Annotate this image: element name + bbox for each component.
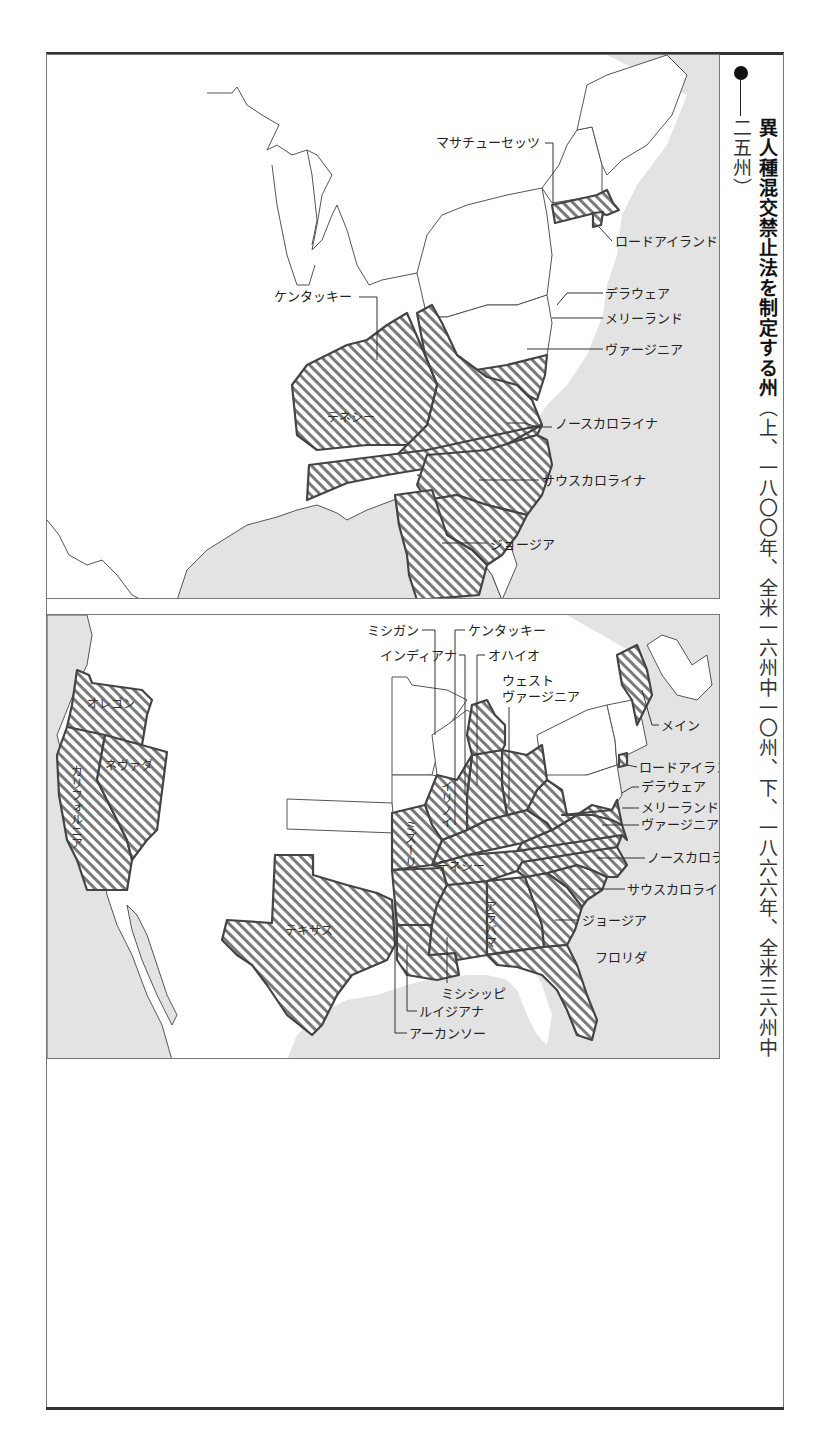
label-rhode-island: ロードアイランド xyxy=(639,760,720,775)
state-kansas-nebraska xyxy=(287,799,395,833)
label-delaware: デラウェア xyxy=(605,286,670,301)
caption-title: 異人種混交禁止法を制定する州 xyxy=(756,118,778,398)
label-michigan: ミシガン xyxy=(367,623,419,638)
label-west-virginia-line2: ヴァージニア xyxy=(502,689,580,704)
label-florida: フロリダ xyxy=(595,950,647,965)
bullet-icon xyxy=(734,66,748,80)
label-west-virginia-line1: ウェスト xyxy=(502,673,554,688)
mexico-coastline xyxy=(47,520,142,599)
caption-stem-line xyxy=(740,80,741,116)
label-georgia: ジョージア xyxy=(490,537,555,552)
label-rhode-island: ロードアイランド xyxy=(615,234,718,249)
label-maryland: メリーランド xyxy=(605,311,683,326)
state-new-york xyxy=(417,188,552,317)
label-texas: テキサス xyxy=(285,924,333,938)
label-arkansas: アーカンソー xyxy=(409,1026,486,1041)
label-alabama: アラバマ xyxy=(482,900,496,948)
label-north-carolina: ノースカロライナ xyxy=(555,416,658,431)
label-maine: メイン xyxy=(661,718,700,733)
map-1800: マサチューセッツ ロードアイランド デラウェア メリーランド ヴァージニア ケン… xyxy=(46,54,720,599)
great-lakes-outline xyxy=(207,87,417,285)
caption-text: 異人種混交禁止法を制定する州（上、一八〇〇年、全米一六州中一〇州、下、一八六六年… xyxy=(728,118,780,1066)
label-tennessee: テネシー xyxy=(327,411,375,425)
map-1866-svg: ミシガン ケンタッキー インディアナ オハイオ ウェスト ヴァージニア メイン … xyxy=(47,615,720,1059)
label-massachusetts: マサチューセッツ xyxy=(436,135,540,150)
label-virginia: ヴァージニア xyxy=(605,342,683,357)
map-1866: ミシガン ケンタッキー インディアナ オハイオ ウェスト ヴァージニア メイン … xyxy=(46,614,720,1059)
state-vermont-nh xyxy=(542,127,602,203)
label-nevada: ネヴァダ xyxy=(105,758,153,773)
label-missouri: ミズーリ xyxy=(402,820,416,868)
label-mississippi: ミシシッピ xyxy=(441,986,506,1001)
label-north-carolina: ノースカロライナ xyxy=(647,850,720,865)
label-maryland: メリーランド xyxy=(641,800,719,815)
label-kentucky: ケンタッキー xyxy=(468,623,546,638)
label-ohio: オハイオ xyxy=(488,648,540,663)
label-indiana: インディアナ xyxy=(380,648,457,663)
label-south-carolina: サウスカロライナ xyxy=(627,882,720,897)
map-1800-svg: マサチューセッツ ロードアイランド デラウェア メリーランド ヴァージニア ケン… xyxy=(47,55,720,599)
state-michigan xyxy=(467,700,505,755)
lake-michigan xyxy=(272,150,317,285)
label-delaware: デラウェア xyxy=(641,779,706,794)
label-tennessee: テネシー xyxy=(437,860,485,874)
label-louisiana: ルイジアナ xyxy=(419,1004,484,1019)
figure-caption: 異人種混交禁止法を制定する州（上、一八〇〇年、全米一六州中一〇州、下、一八六六年… xyxy=(724,66,784,1066)
label-georgia: ジョージア xyxy=(582,913,647,928)
state-rhode-island xyxy=(619,753,627,767)
label-virginia: ヴァージニア xyxy=(641,817,719,832)
label-oregon: オレゴン xyxy=(87,696,135,711)
label-south-carolina: サウスカロライナ xyxy=(542,473,646,488)
bottom-rule xyxy=(46,1407,784,1410)
state-kentucky xyxy=(292,313,437,450)
label-illinois: イリノイ xyxy=(438,780,452,828)
label-california: カリフォルニア xyxy=(68,765,82,849)
state-rhode-island xyxy=(593,212,603,227)
label-kentucky: ケンタッキー xyxy=(274,289,352,304)
